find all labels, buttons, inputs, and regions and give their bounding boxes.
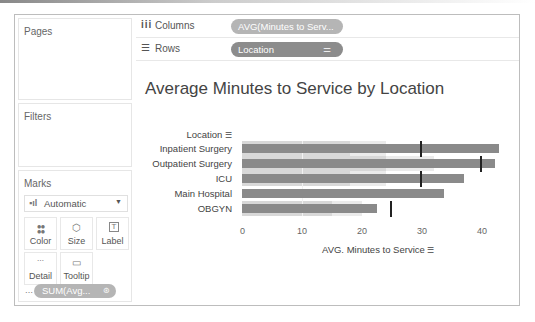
category-label[interactable]: ICU: [136, 173, 232, 184]
category-label[interactable]: Inpatient Surgery: [136, 143, 232, 154]
marks-card: Marks ▪ıl Automatic ▼ ●●●● Color ⬡ Size …: [18, 170, 132, 302]
bar-main-hospital[interactable]: [242, 189, 444, 198]
rows-shelf: ☰ Rows Location ⚌: [136, 38, 519, 61]
x-tick: 30: [417, 226, 427, 236]
bar-chart-icon: ▪ıl: [29, 198, 37, 208]
rows-icon: ☰: [141, 42, 150, 53]
target-line[interactable]: [420, 141, 422, 157]
size-icon: ⬡: [61, 222, 92, 233]
rows-pill-label: Location: [238, 44, 274, 55]
columns-pill-label: AVG(Minutes to Serv...: [238, 21, 334, 32]
sort-icon: ⚌: [323, 42, 331, 57]
bar-obgyn[interactable]: [242, 204, 377, 213]
label-label: Label: [97, 236, 128, 246]
mark-type-dropdown[interactable]: ▪ıl Automatic ▼: [24, 195, 128, 212]
category-label[interactable]: Main Hospital: [136, 188, 232, 199]
x-axis-title[interactable]: AVG. Minutes to Service ☰: [322, 244, 434, 255]
target-line[interactable]: [420, 171, 422, 187]
left-panel: Pages Filters Marks ▪ıl Automatic ▼ ●●●●…: [15, 15, 135, 305]
x-tick: 0: [240, 226, 245, 236]
color-button[interactable]: ●●●● Color: [24, 217, 57, 250]
filters-title: Filters: [24, 111, 51, 122]
top-edge-shadow: [0, 0, 535, 3]
rows-pill[interactable]: Location ⚌: [231, 42, 343, 57]
marks-field-pill-label: SUM(Avg...: [42, 285, 90, 296]
color-label: Color: [25, 236, 56, 246]
text-label-icon: T: [109, 222, 119, 232]
detail-icon: ⋯: [25, 288, 33, 297]
x-axis-title-label: AVG. Minutes to Service: [322, 244, 425, 255]
sort-icon: ☰: [427, 246, 434, 255]
plot-area: [242, 141, 512, 221]
mark-type-value: Automatic: [44, 198, 86, 209]
row-header-label: Location: [186, 129, 222, 140]
tableau-workspace: Pages Filters Marks ▪ıl Automatic ▼ ●●●●…: [14, 14, 520, 306]
rows-label: Rows: [155, 43, 180, 54]
tooltip-label: Tooltip: [61, 271, 92, 281]
category-label[interactable]: Outpatient Surgery: [136, 158, 232, 169]
chevron-down-icon: ▼: [115, 198, 122, 205]
filters-card[interactable]: Filters: [18, 103, 132, 167]
marks-title: Marks: [24, 178, 51, 189]
label-button[interactable]: T Label: [96, 217, 129, 250]
pages-card[interactable]: Pages: [18, 18, 132, 100]
columns-pill[interactable]: AVG(Minutes to Serv...: [231, 19, 343, 34]
marks-field-pill[interactable]: SUM(Avg... ⊛: [34, 284, 116, 298]
x-tick: 10: [297, 226, 307, 236]
columns-shelf: iii Columns AVG(Minutes to Serv...: [136, 15, 519, 38]
columns-icon: iii: [141, 19, 152, 30]
category-label[interactable]: OBGYN: [136, 203, 232, 214]
columns-label: Columns: [155, 20, 194, 31]
speech-bubble-icon: ▭: [61, 257, 92, 268]
target-line[interactable]: [480, 156, 482, 172]
row-header[interactable]: Location ☰: [136, 129, 232, 140]
bar-inpatient-surgery[interactable]: [242, 144, 499, 153]
x-tick: 20: [357, 226, 367, 236]
detail-button[interactable]: ⋯ Detail: [24, 252, 57, 285]
pages-title: Pages: [24, 26, 52, 37]
dots-grid-icon: ●●●●: [25, 224, 56, 234]
bar-icu[interactable]: [242, 174, 464, 183]
size-label: Size: [61, 236, 92, 246]
tooltip-button[interactable]: ▭ Tooltip: [60, 252, 93, 285]
bar-outpatient-surgery[interactable]: [242, 159, 495, 168]
chart-title: Average Minutes to Service by Location: [145, 79, 444, 99]
size-button[interactable]: ⬡ Size: [60, 217, 93, 250]
detail-icon: ⋯: [25, 257, 56, 265]
detail-label: Detail: [25, 271, 56, 281]
target-line[interactable]: [390, 201, 392, 217]
x-tick: 40: [477, 226, 487, 236]
chart-view: Average Minutes to Service by Location L…: [136, 63, 519, 305]
detail-icon: ⊛: [103, 286, 110, 295]
sort-icon: ☰: [225, 131, 232, 140]
